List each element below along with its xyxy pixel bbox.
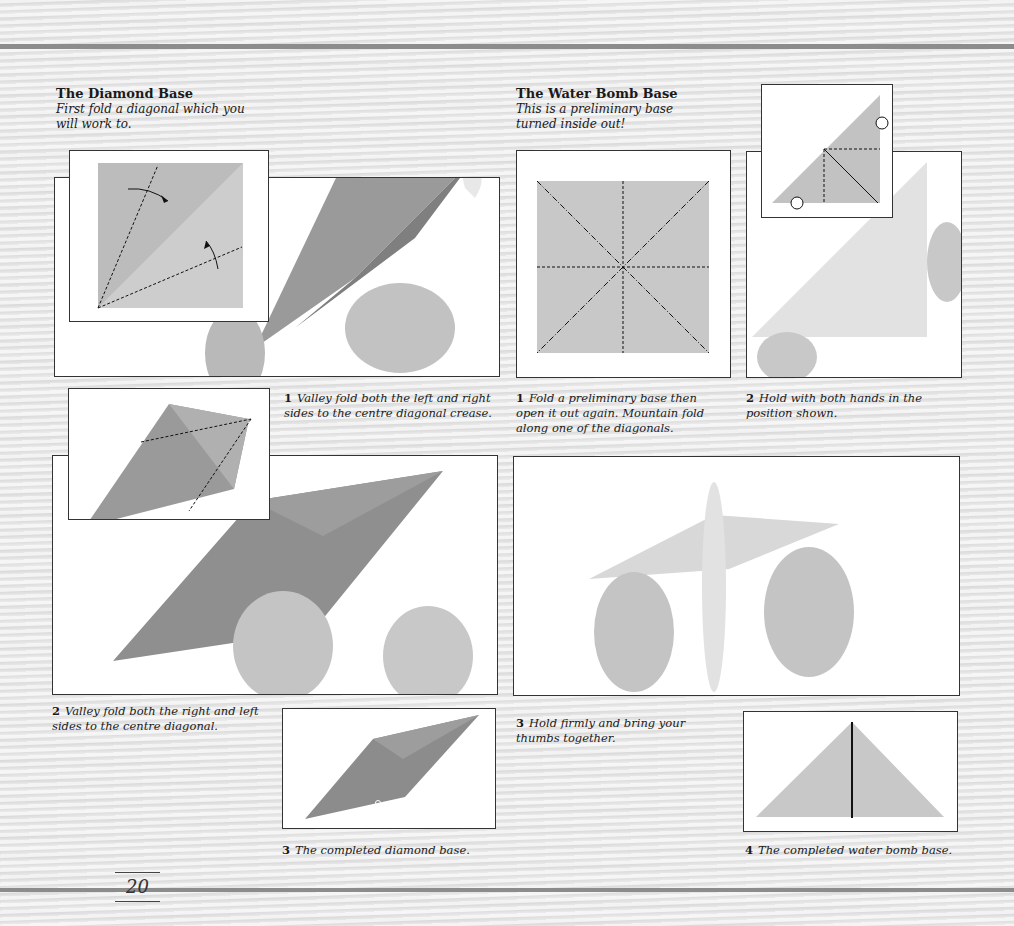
- water-bomb-step4-caption: 4The completed water bomb base.: [745, 843, 952, 858]
- diamond-fold-diagram-icon: [69, 389, 269, 519]
- completed-diamond-icon: [283, 709, 495, 828]
- water-bomb-intro: This is a preliminary base turned inside…: [516, 102, 716, 132]
- completed-triangle-icon: [744, 712, 957, 831]
- crease-pattern-icon: [517, 151, 730, 377]
- water-bomb-step2-inset: [761, 84, 893, 218]
- diamond-step1-caption: 1Valley fold both the left and right sid…: [284, 391, 500, 421]
- water-bomb-step2-caption: 2Hold with both hands in the position sh…: [746, 391, 956, 421]
- diamond-step3-photo: [282, 708, 496, 829]
- water-bomb-step1-diagram: [516, 150, 731, 378]
- water-bomb-step4-diagram: [743, 711, 958, 832]
- diamond-base-title: The Diamond Base: [56, 86, 193, 102]
- water-bomb-step3-caption: 3Hold firmly and bring your thumbs toget…: [516, 716, 716, 746]
- diamond-step2-inset: [68, 388, 270, 520]
- triangle-diagram-icon: [762, 85, 892, 217]
- diamond-step3-caption: 3The completed diamond base.: [282, 843, 470, 858]
- diamond-crease-diagram-icon: [70, 151, 268, 321]
- diamond-step2-caption: 2Valley fold both the right and left sid…: [52, 704, 262, 734]
- diamond-base-intro: First fold a diagonal which you will wor…: [56, 102, 266, 132]
- folding-photo-icon: [514, 457, 959, 695]
- water-bomb-title: The Water Bomb Base: [516, 86, 678, 102]
- water-bomb-step3-photo: [513, 456, 960, 696]
- top-rule: [0, 44, 1014, 49]
- water-bomb-step1-caption: 1Fold a preliminary base then open it ou…: [516, 391, 726, 436]
- diamond-step1-inset: [69, 150, 269, 322]
- page-number: 20: [115, 872, 160, 902]
